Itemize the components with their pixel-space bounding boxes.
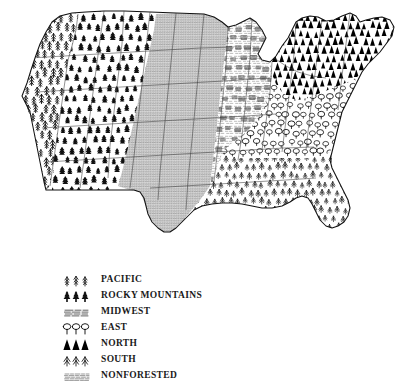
legend-label-rocky-mountains: ROCKY MOUNTAINS [101, 291, 202, 301]
legend-label-pacific: PACIFIC [101, 275, 142, 285]
legend-item-pacific[interactable]: PACIFIC [62, 273, 142, 287]
legend-item-rocky-mountains[interactable]: ROCKY MOUNTAINS [62, 289, 202, 303]
legend-item-south[interactable]: SOUTH [62, 353, 136, 367]
us-forest-regions-map [0, 0, 406, 265]
broadleaf-tree-icon [62, 322, 92, 335]
legend-item-nonforested[interactable]: NONFORESTED [62, 369, 177, 383]
bushy-conifer-icon [62, 290, 92, 303]
tall-conifer-icon [62, 274, 92, 287]
pine-m-icon [62, 354, 92, 367]
legend-label-north: NORTH [101, 339, 137, 349]
legend-label-east: EAST [101, 323, 127, 333]
legend-label-midwest: MIDWEST [101, 307, 150, 317]
legend-item-midwest[interactable]: MIDWEST [62, 305, 150, 319]
forest-region-legend: PACIFIC ROCKY MOUNTAINS MIDWEST [0, 265, 406, 378]
legend-item-east[interactable]: EAST [62, 321, 127, 335]
fine-stipple-icon [62, 370, 92, 383]
legend-label-south: SOUTH [101, 355, 136, 365]
legend-label-nonforested: NONFORESTED [101, 371, 177, 381]
solid-triangle-fir-icon [62, 338, 92, 351]
legend-item-north[interactable]: NORTH [62, 337, 137, 351]
hatch-scrub-icon [62, 306, 92, 319]
